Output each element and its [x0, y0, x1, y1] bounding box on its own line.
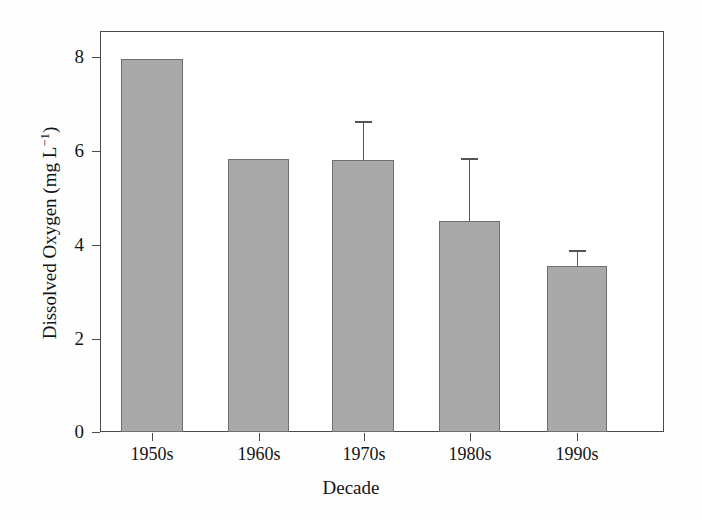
errorbar-cap-1990s	[569, 250, 586, 252]
xtick-mark-1950s	[152, 433, 153, 441]
bar-group-1950s	[121, 59, 183, 432]
ytick-mark-2	[92, 339, 100, 340]
bar-1960s[interactable]	[228, 159, 289, 432]
xtick-label-1950s: 1950s	[97, 445, 207, 463]
y-axis-title-base: Dissolved Oxygen (mg L	[39, 147, 60, 340]
bar-1950s[interactable]	[121, 59, 183, 432]
bar-group-1960s	[228, 159, 289, 432]
errorbar-line-1980s	[469, 159, 470, 221]
y-axis-title: Dissolved Oxygen (mg L−1)	[39, 43, 61, 423]
ytick-mark-8	[92, 57, 100, 58]
xtick-label-1970s: 1970s	[309, 445, 419, 463]
y-axis-title-tail: )	[39, 127, 60, 133]
bar-1990s[interactable]	[547, 266, 607, 432]
xtick-label-1990s: 1990s	[522, 445, 632, 463]
errorbar-cap-1980s	[461, 158, 478, 160]
bar-1970s[interactable]	[332, 160, 394, 432]
bar-1980s[interactable]	[439, 221, 500, 432]
bar-group-1970s	[332, 122, 394, 432]
ytick-label-0: 0	[44, 422, 84, 441]
xtick-mark-1960s	[259, 433, 260, 441]
bar-group-1980s	[439, 159, 500, 432]
ytick-mark-0	[92, 432, 100, 433]
errorbar-line-1970s	[363, 122, 364, 160]
xtick-mark-1970s	[364, 433, 365, 441]
errorbar-cap-1970s	[355, 121, 372, 123]
xtick-label-1980s: 1980s	[415, 445, 525, 463]
plot-area	[101, 32, 664, 432]
xtick-label-1960s: 1960s	[204, 445, 314, 463]
xtick-mark-1990s	[577, 433, 578, 441]
y-axis-title-exponent: −1	[37, 133, 52, 147]
figure: 8 6 4 2 0	[0, 0, 702, 520]
errorbar-line-1990s	[577, 251, 578, 266]
ytick-mark-4	[92, 245, 100, 246]
ytick-mark-6	[92, 151, 100, 152]
bar-group-1990s	[547, 251, 607, 432]
x-axis-title: Decade	[0, 477, 702, 499]
xtick-mark-1980s	[470, 433, 471, 441]
